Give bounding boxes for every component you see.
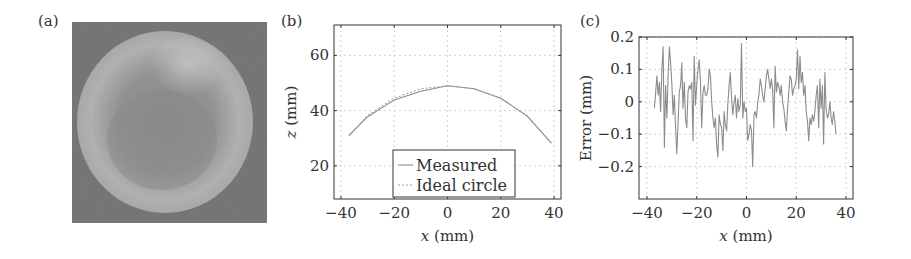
legend-entry: Ideal circle	[416, 176, 507, 195]
figure-canvas: −40−2002040204060x (mm)z (mm)MeasuredIde…	[0, 0, 911, 259]
y-tick-label: −0.1	[598, 125, 634, 143]
x-tick-label: −20	[681, 204, 713, 222]
series-error	[654, 44, 836, 167]
x-axis-label: x (mm)	[421, 227, 474, 245]
y-tick-label: 60	[310, 46, 329, 64]
x-tick-label: 0	[443, 204, 453, 222]
y-tick-label: −0.2	[598, 158, 634, 176]
legend-entry: Measured	[416, 156, 497, 175]
y-tick-label: 0	[624, 93, 634, 111]
x-tick-label: −20	[378, 204, 410, 222]
y-tick-label: 0.1	[610, 60, 634, 78]
axes-frame	[639, 37, 853, 199]
y-tick-label: 20	[310, 157, 329, 175]
x-tick-label: 20	[787, 204, 806, 222]
y-axis-label: z (mm)	[282, 86, 300, 140]
chart-b-z-profile: −40−2002040204060x (mm)z (mm)MeasuredIde…	[282, 25, 564, 245]
x-tick-label: 0	[742, 204, 752, 222]
x-tick-label: 40	[836, 204, 855, 222]
series-measured	[349, 86, 552, 143]
series-ideal-circle	[349, 86, 552, 143]
legend: MeasuredIdeal circle	[393, 150, 515, 197]
x-tick-label: 20	[491, 204, 510, 222]
chart-c-error: −40−2002040−0.2−0.100.10.2x (mm)Error (m…	[577, 28, 856, 245]
x-tick-label: 40	[545, 204, 564, 222]
y-axis-label: Error (mm)	[577, 75, 595, 161]
x-axis-label: x (mm)	[719, 227, 772, 245]
x-tick-label: −40	[631, 204, 663, 222]
x-tick-label: −40	[325, 204, 357, 222]
y-tick-label: 0.2	[610, 28, 634, 46]
y-tick-label: 40	[310, 102, 329, 120]
